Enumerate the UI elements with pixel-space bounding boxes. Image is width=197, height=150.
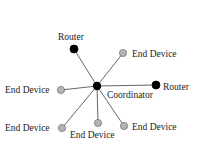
edge-end-device-1 <box>97 53 123 86</box>
end-device-node-icon <box>120 122 127 129</box>
end-device-node-icon <box>119 49 126 56</box>
coordinator-label: Coordinator <box>107 90 154 100</box>
router-node-icon <box>70 45 78 53</box>
edge-end-device-5 <box>97 86 98 123</box>
end-device-label: End Device <box>132 122 177 132</box>
router-label: Router <box>58 32 85 42</box>
end-device-node-icon <box>58 124 65 131</box>
router-label: Router <box>163 82 190 92</box>
star-network-diagram: RouterEnd DeviceRouterEnd DeviceEnd Devi… <box>0 0 197 150</box>
end-device-node-icon <box>94 119 101 126</box>
edge-router-0 <box>74 49 97 86</box>
end-device-label: End Device <box>5 123 50 133</box>
end-device-label: End Device <box>132 49 177 59</box>
end-device-label: End Device <box>70 130 115 140</box>
edges <box>61 49 156 128</box>
end-device-label: End Device <box>5 85 50 95</box>
edge-router-2 <box>97 85 156 86</box>
edge-end-device-4 <box>62 86 97 128</box>
coordinator-node-icon <box>93 82 101 90</box>
end-device-node-icon <box>57 86 64 93</box>
router-node-icon <box>152 81 160 89</box>
edge-end-device-3 <box>61 86 97 90</box>
